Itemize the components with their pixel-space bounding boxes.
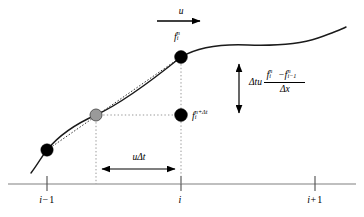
diagram-canvas (0, 0, 364, 217)
advection-diagram-figure: u f n i f n+Δt i uΔt Δtu (0, 0, 364, 217)
node-i-current (175, 51, 188, 64)
node-i-minus-1 (41, 144, 53, 156)
solution-curve (31, 27, 346, 173)
node-departure-point (90, 109, 102, 121)
node-i-updated (175, 109, 188, 122)
interpolation-chord (47, 57, 181, 150)
